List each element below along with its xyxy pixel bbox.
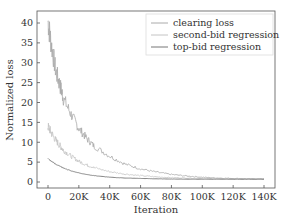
x-tick-label: 40K [100,191,120,202]
x-tick-label: 140K [251,191,277,202]
x-axis-label: Iteration [134,204,179,215]
x-tick-label: 20K [69,191,89,202]
y-tick-label: 5 [27,156,33,167]
x-tick-label: 60K [131,191,151,202]
x-tick-label: 120K [221,191,247,202]
legend: clearing losssecond-bid regressiontop-bi… [146,14,279,55]
y-tick-label: 40 [21,17,33,28]
loss-chart: 020K40K60K80K100K120K140K 05101520253035… [0,0,285,221]
legend-label: clearing loss [173,17,234,28]
y-axis-ticks: 0510152025303540 [21,17,40,187]
y-axis-label: Normalized loss [4,59,15,141]
y-tick-label: 30 [21,57,33,68]
y-tick-label: 35 [21,37,33,48]
legend-label: top-bid regression [173,41,261,52]
x-tick-label: 80K [162,191,182,202]
y-tick-label: 10 [21,137,33,148]
y-tick-label: 20 [21,97,33,108]
y-tick-label: 15 [21,117,33,128]
x-tick-label: 0 [45,191,51,202]
x-tick-label: 100K [190,191,216,202]
legend-label: second-bid regression [173,29,279,40]
y-tick-label: 25 [21,77,33,88]
y-tick-label: 0 [27,176,33,187]
